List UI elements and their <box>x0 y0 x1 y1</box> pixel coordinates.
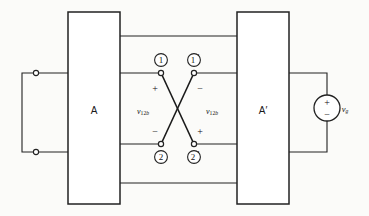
block-a-prime-label: A′ <box>259 105 268 116</box>
voltage-source-group: + − vg <box>314 95 348 121</box>
terminal-badge-2p: 2 ′ <box>188 149 201 164</box>
left-port-wire <box>22 73 68 152</box>
left-port-loop <box>22 70 68 154</box>
terminal-badge-1p: 1 ′ <box>188 52 201 67</box>
polarity-minus-bottom-left: − <box>152 126 158 137</box>
circuit-diagram-figure: A A′ <box>0 0 369 216</box>
terminal-node-2p <box>191 141 196 146</box>
terminal-badge-1: 1 <box>155 54 168 67</box>
voltage-label-left: v12b <box>137 107 149 117</box>
terminal-badge-2: 2 <box>155 151 168 164</box>
circuit-svg: A A′ <box>0 0 369 216</box>
terminal-badge-2-label: 2 <box>159 152 164 162</box>
block-a-prime-group: A′ <box>237 12 289 204</box>
voltage-source-plus: + <box>324 97 330 108</box>
voltage-label-left-group: v12b <box>137 107 149 117</box>
block-a-label: A <box>91 105 98 116</box>
terminal-node-2 <box>158 141 163 146</box>
block-a-group: A <box>68 12 120 204</box>
terminal-badge-2p-label: 2 <box>191 152 196 162</box>
voltage-label-right-subitalic: b <box>215 110 218 116</box>
voltage-source-label: vg <box>342 104 349 114</box>
terminal-badge-1-label: 1 <box>159 55 164 65</box>
source-wire-top <box>289 73 327 95</box>
terminal-node-1p <box>191 70 196 75</box>
polarity-minus-top-right: − <box>197 83 203 94</box>
terminal-badge-1p-prime: ′ <box>198 52 200 62</box>
left-port-terminal-bottom <box>33 149 38 154</box>
source-wire-bottom <box>289 121 327 152</box>
voltage-source-label-subscript: g <box>345 108 348 114</box>
polarity-plus-top-left: + <box>152 83 158 94</box>
left-port-terminal-top <box>33 70 38 75</box>
polarity-plus-bottom-right: + <box>197 126 203 137</box>
voltage-label-right: v12b <box>206 107 218 117</box>
voltage-label-right-group: v12b <box>206 107 218 117</box>
terminal-badge-1p-label: 1 <box>191 55 196 65</box>
terminal-badge-2p-prime: ′ <box>198 149 200 159</box>
terminal-node-1 <box>158 70 163 75</box>
voltage-source-minus: − <box>324 109 330 120</box>
voltage-label-left-subitalic: b <box>146 110 149 116</box>
crossed-connection-group <box>162 75 193 142</box>
